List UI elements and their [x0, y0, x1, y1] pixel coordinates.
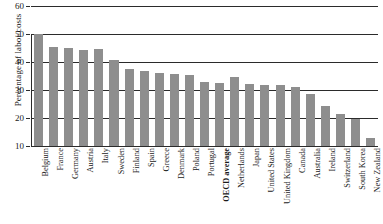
x-axis-tick: Austria: [76, 148, 91, 224]
bar-slot: [137, 6, 152, 146]
y-tick-mark-30: [26, 90, 30, 91]
x-axis-tick: Japan: [242, 148, 257, 224]
y-tick-label: 40: [15, 57, 24, 67]
bar: [94, 49, 103, 146]
bar-slot: [348, 6, 363, 146]
bar: [125, 69, 134, 146]
x-axis-tick: Finland: [122, 148, 137, 224]
bar: [245, 84, 254, 146]
y-tick-label: 60: [15, 1, 24, 11]
x-axis-tick: United States: [257, 148, 272, 224]
bar-slot: [122, 6, 137, 146]
x-axis-tick: New Zealand: [363, 148, 378, 224]
y-tick-mark-50: [26, 34, 30, 35]
bar-slot: [91, 6, 106, 146]
bar: [291, 87, 300, 146]
plot-area: 102030405060: [31, 6, 378, 146]
x-axis-tick: Australia: [303, 148, 318, 224]
bar: [34, 34, 43, 146]
bar-slot: [273, 6, 288, 146]
x-axis-tick: Belgium: [31, 148, 46, 224]
x-axis-tick: Canada: [288, 148, 303, 224]
bar: [215, 83, 224, 146]
labor-costs-bar-chart: Percentage of labor costs 102030405060 B…: [0, 0, 383, 224]
bar: [170, 74, 179, 146]
bar: [276, 85, 285, 146]
y-tick-mark-10: [26, 146, 30, 147]
bar-slot: [363, 6, 378, 146]
bar-slot: [46, 6, 61, 146]
bar-slot: [257, 6, 272, 146]
x-axis-tick: Denmark: [167, 148, 182, 224]
bar: [306, 94, 315, 146]
gridline-10: [31, 146, 378, 147]
bar-slot: [31, 6, 46, 146]
x-axis-tick: Sweden: [106, 148, 121, 224]
bar-slot: [212, 6, 227, 146]
y-tick-mark-40: [26, 62, 30, 63]
bar: [336, 114, 345, 146]
x-axis-tick: OECD average: [212, 148, 227, 224]
bar: [109, 60, 118, 146]
y-tick-label: 50: [15, 29, 24, 39]
x-axis-tick: Ireland: [318, 148, 333, 224]
bar-slot: [61, 6, 76, 146]
bar-slot: [333, 6, 348, 146]
x-axis-tick: Greece: [152, 148, 167, 224]
bar-slot: [318, 6, 333, 146]
bar-slot: [106, 6, 121, 146]
bar: [366, 138, 375, 146]
x-axis-tick: Portugal: [197, 148, 212, 224]
bar: [79, 50, 88, 146]
y-tick-label: 10: [15, 141, 24, 151]
bar: [260, 85, 269, 146]
y-tick-mark-60: [26, 6, 30, 7]
bar-slot: [182, 6, 197, 146]
x-axis-tick: Spain: [137, 148, 152, 224]
bar: [185, 75, 194, 146]
x-axis-category-labels: BelgiumFranceGermanyAustriaItalySwedenFi…: [31, 148, 378, 224]
bar-slot: [303, 6, 318, 146]
x-axis-tick: Netherlands: [227, 148, 242, 224]
bar-slot: [152, 6, 167, 146]
x-axis-tick: Italy: [91, 148, 106, 224]
bar: [200, 82, 209, 146]
y-tick-label: 30: [15, 85, 24, 95]
bar: [49, 47, 58, 146]
bar: [321, 106, 330, 146]
y-tick-mark-20: [26, 118, 30, 119]
bar-slot: [197, 6, 212, 146]
bar: [230, 77, 239, 146]
x-axis-tick: France: [46, 148, 61, 224]
x-axis-tick-label: New Zealand: [374, 148, 382, 192]
bar: [140, 71, 149, 146]
bar-slot: [242, 6, 257, 146]
x-axis-tick: Switzerland: [333, 148, 348, 224]
bar-series: [31, 6, 378, 146]
bar-slot: [288, 6, 303, 146]
x-axis-tick: South Korea: [348, 148, 363, 224]
x-axis-tick: Poland: [182, 148, 197, 224]
x-axis-tick: Germany: [61, 148, 76, 224]
x-axis-tick: United Kingdom: [273, 148, 288, 224]
bar: [155, 73, 164, 146]
bar: [64, 48, 73, 146]
bar-slot: [227, 6, 242, 146]
y-tick-label: 20: [15, 113, 24, 123]
bar-slot: [76, 6, 91, 146]
bar: [351, 119, 360, 146]
bar-slot: [167, 6, 182, 146]
